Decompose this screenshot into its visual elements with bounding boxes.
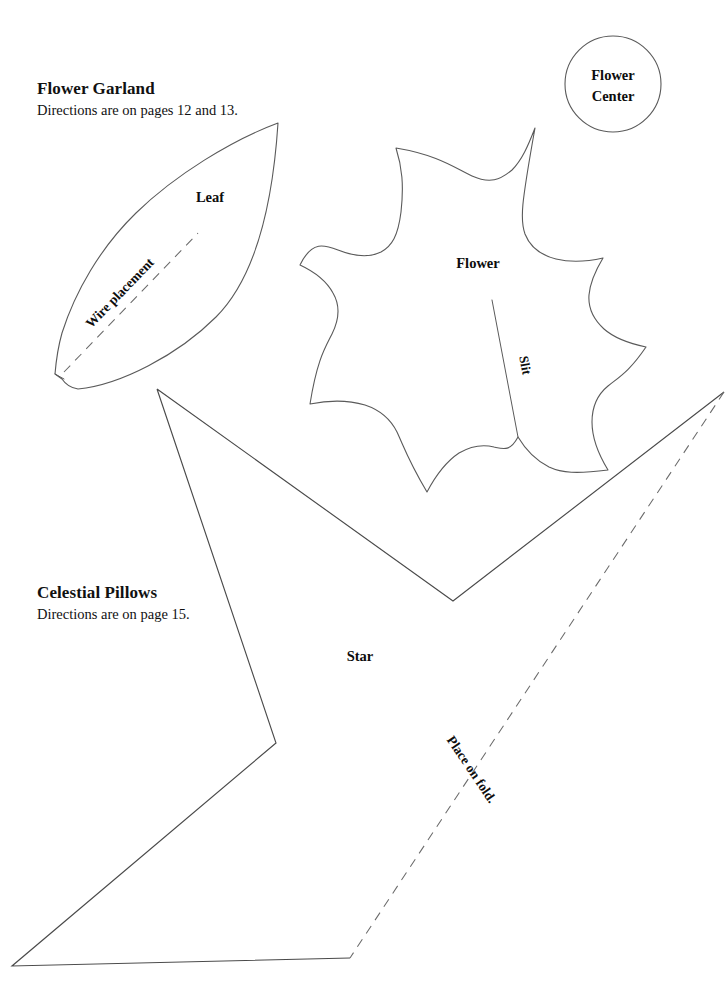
celestial-pillows-title: Celestial Pillows [37, 582, 190, 603]
wire-placement-line [64, 233, 198, 372]
flower-garland-title: Flower Garland [37, 78, 238, 99]
flower-piece: Flower Slit [300, 128, 646, 492]
leaf-outline [55, 123, 278, 389]
flower-slit-line [492, 300, 518, 437]
flower-garland-subtitle: Directions are on pages 12 and 13. [37, 101, 238, 119]
slit-label: Slit [516, 355, 534, 377]
leaf-base-notch [55, 374, 64, 379]
pattern-canvas: Flower Center Leaf Wire placement Flower… [0, 0, 727, 984]
celestial-pillows-subtitle: Directions are on page 15. [37, 605, 190, 623]
place-on-fold-line [350, 392, 724, 958]
section-flower-garland: Flower Garland Directions are on pages 1… [37, 78, 238, 119]
flower-center-piece: Flower Center [565, 36, 661, 132]
flower-center-label-line1: Flower [591, 67, 635, 83]
star-piece: Star Place on fold. [12, 389, 724, 966]
leaf-label: Leaf [196, 189, 224, 205]
section-celestial-pillows: Celestial Pillows Directions are on page… [37, 582, 190, 623]
star-outline [12, 389, 724, 966]
flower-label: Flower [456, 255, 500, 271]
pattern-sheet-page: Flower Center Leaf Wire placement Flower… [0, 0, 727, 984]
flower-outline [300, 128, 646, 492]
flower-center-label-line2: Center [592, 88, 635, 104]
leaf-piece: Leaf Wire placement [55, 123, 278, 389]
flower-center-outline [565, 36, 661, 132]
star-label: Star [347, 648, 374, 664]
